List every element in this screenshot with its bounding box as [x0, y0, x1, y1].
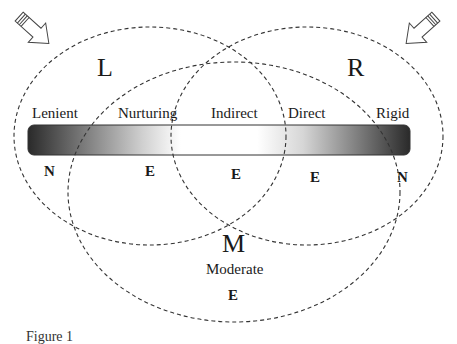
- style-label-indirect: Indirect: [211, 106, 258, 121]
- code-lenient: N: [44, 164, 55, 179]
- figure-caption: Figure 1: [26, 330, 73, 344]
- style-label-rigid: Rigid: [376, 106, 409, 121]
- arrow-down-left-icon: [397, 7, 444, 53]
- spectrum-bar: [28, 125, 410, 155]
- code-indirect: E: [231, 167, 241, 182]
- circle-label-r: R: [347, 55, 364, 81]
- moderate-label: Moderate: [206, 262, 263, 277]
- code-rigid: N: [397, 170, 408, 185]
- code-nurturing: E: [145, 164, 155, 179]
- circle-label-l: L: [97, 55, 113, 81]
- code-moderate: E: [228, 288, 238, 303]
- circle-m: [68, 62, 400, 322]
- style-label-lenient: Lenient: [32, 106, 78, 121]
- style-label-direct: Direct: [288, 106, 325, 121]
- style-label-nurturing: Nurturing: [118, 106, 177, 121]
- circle-label-m: M: [222, 231, 245, 257]
- code-direct: E: [310, 170, 320, 185]
- arrow-down-right-icon: [10, 7, 57, 53]
